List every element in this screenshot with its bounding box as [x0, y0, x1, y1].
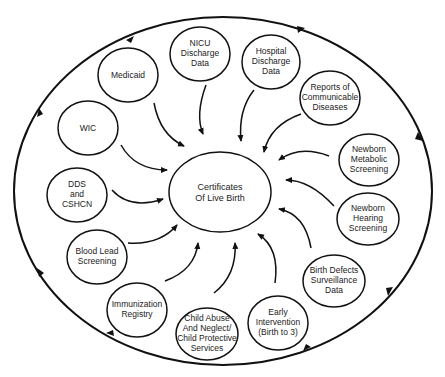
- node-label: Data: [325, 285, 343, 295]
- node-label: Data: [262, 66, 280, 76]
- node-label: CSHCN: [62, 199, 92, 209]
- node-hearing: Newborn Hearing Screening: [337, 193, 399, 245]
- node-label: Newborn: [352, 144, 386, 154]
- data-linkage-diagram: Certificates Of Live Birth NICU Discharg…: [0, 0, 445, 377]
- node-label: Metabolic: [351, 154, 388, 164]
- node-dds: DDS and CSHCN: [47, 168, 107, 222]
- arrow-hospital: [241, 90, 254, 141]
- node-early-intervention: Early Intervention (Birth to 3): [248, 296, 308, 350]
- node-label: Medicaid: [111, 70, 145, 80]
- node-medicaid: Medicaid: [98, 48, 158, 102]
- arrow-wic: [121, 145, 167, 170]
- node-label: Hospital: [256, 46, 287, 56]
- node-hospital: Hospital Discharge Data: [242, 35, 300, 89]
- node-label: Surveillance: [311, 275, 358, 285]
- center-label-line-1: Certificates: [197, 182, 243, 192]
- node-label: Immunization: [112, 299, 163, 309]
- node-label: (Birth to 3): [258, 327, 298, 337]
- center-label-line-2: Of Live Birth: [195, 193, 245, 203]
- arrow-child-abuse: [214, 243, 235, 293]
- node-metabolic: Newborn Metabolic Screening: [339, 134, 399, 186]
- arrow-metabolic: [279, 151, 329, 160]
- node-label: Diseases: [313, 102, 348, 112]
- arrow-reports: [264, 114, 301, 152]
- node-label: Communicable: [302, 92, 359, 102]
- center-node-certificates: Certificates Of Live Birth: [169, 152, 271, 232]
- node-label: and: [70, 189, 84, 199]
- node-label: And Neglect/: [183, 323, 232, 333]
- arrow-dds: [112, 190, 163, 203]
- node-immunization: Immunization Registry: [107, 283, 167, 337]
- node-label: Intervention: [256, 317, 301, 327]
- node-label: Registry: [121, 309, 153, 319]
- node-blood-lead: Blood Lead Screening: [67, 230, 127, 284]
- node-label: DDS: [68, 179, 86, 189]
- node-label: Services: [191, 343, 224, 353]
- node-label: Hearing: [353, 213, 383, 223]
- node-reports: Reports of Communicable Diseases: [300, 71, 360, 125]
- node-nicu: NICU Discharge Data: [170, 27, 230, 81]
- arrow-immunization: [165, 243, 198, 281]
- node-label: Birth Defects: [310, 265, 359, 275]
- arrow-nicu: [200, 85, 206, 134]
- arrow-hearing: [286, 180, 334, 206]
- node-label: Early: [268, 307, 288, 317]
- node-label: Data: [191, 58, 209, 68]
- node-label: WIC: [80, 123, 97, 133]
- node-label: Child Protective: [177, 333, 237, 343]
- node-label: Screening: [350, 164, 389, 174]
- arrow-blood-lead: [128, 225, 177, 243]
- node-label: Screening: [78, 256, 117, 266]
- node-label: Newborn: [351, 203, 385, 213]
- node-label: Discharge: [181, 48, 220, 58]
- node-child-abuse: Child Abuse And Neglect/ Child Protectiv…: [176, 308, 238, 360]
- node-birth-defects: Birth Defects Surveillance Data: [303, 255, 365, 307]
- arrow-medicaid: [154, 103, 184, 146]
- arrow-early-intervention: [258, 234, 276, 283]
- arrow-birth-defects: [279, 209, 311, 248]
- node-label: Child Abuse: [184, 313, 230, 323]
- node-label: Reports of: [310, 82, 350, 92]
- node-label: Screening: [349, 223, 388, 233]
- node-wic: WIC: [58, 101, 118, 155]
- node-label: Discharge: [252, 56, 291, 66]
- node-label: Blood Lead: [75, 246, 118, 256]
- node-label: NICU: [190, 38, 211, 48]
